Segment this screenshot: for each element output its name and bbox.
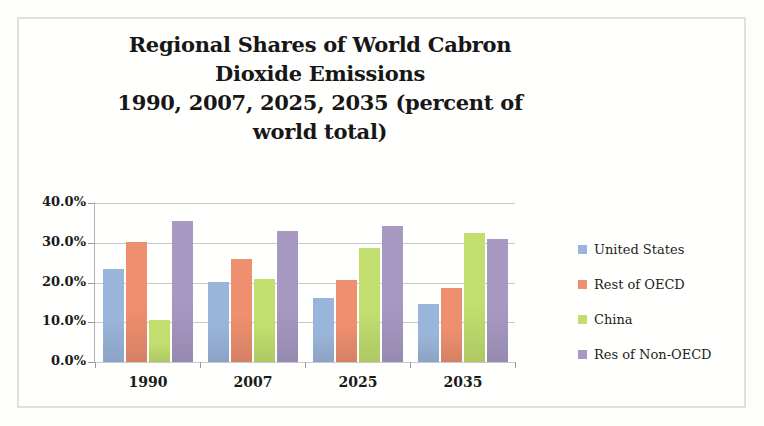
- legend-item: Res of Non-OECD: [578, 337, 748, 372]
- x-axis-tick-label: 2035: [411, 374, 516, 390]
- legend-item: United States: [578, 232, 748, 267]
- legend-item-label: China: [594, 312, 633, 327]
- y-axis-tick-label: 30.0%: [16, 234, 86, 249]
- legend-swatch-icon: [578, 280, 587, 289]
- x-axis-tick-label: 2007: [201, 374, 306, 390]
- y-axis-tick-label: 40.0%: [16, 194, 86, 209]
- bar: [231, 259, 252, 362]
- y-axis-labels: 0.0%10.0%20.0%30.0%40.0%: [14, 0, 86, 426]
- bar: [441, 288, 462, 362]
- legend-item-label: Res of Non-OECD: [594, 347, 712, 362]
- bar: [418, 304, 439, 362]
- bar: [382, 226, 403, 362]
- legend-item: China: [578, 302, 748, 337]
- bar: [487, 239, 508, 362]
- chart-screenshot: Regional Shares of World Cabron Dioxide …: [0, 0, 764, 426]
- plot-area: [95, 203, 515, 362]
- chart-title: Regional Shares of World Cabron Dioxide …: [60, 30, 580, 146]
- bar: [359, 248, 380, 362]
- bar: [313, 298, 334, 362]
- bar: [208, 282, 229, 362]
- gridline: [95, 243, 515, 244]
- chart-title-line-3: 1990, 2007, 2025, 2035 (percent of: [60, 88, 580, 117]
- bar: [277, 231, 298, 362]
- y-axis-tick-label: 10.0%: [16, 313, 86, 328]
- legend-swatch-icon: [578, 245, 587, 254]
- legend-swatch-icon: [578, 315, 587, 324]
- bar: [464, 233, 485, 362]
- legend-item: Rest of OECD: [578, 267, 748, 302]
- legend-item-label: Rest of OECD: [594, 277, 685, 292]
- bar: [126, 242, 147, 362]
- bar: [254, 279, 275, 362]
- y-axis-tick-label: 0.0%: [16, 353, 86, 368]
- y-axis-tick-label: 20.0%: [16, 274, 86, 289]
- bar: [172, 221, 193, 362]
- x-axis-tick: [95, 362, 96, 368]
- bar: [103, 269, 124, 362]
- gridline: [95, 283, 515, 284]
- x-axis-tick-label: 2025: [306, 374, 411, 390]
- x-axis-tick: [515, 362, 516, 368]
- x-axis-tick: [410, 362, 411, 368]
- x-axis-tick: [200, 362, 201, 368]
- chart-title-line-1: Regional Shares of World Cabron: [60, 30, 580, 59]
- chart-legend: United StatesRest of OECDChinaRes of Non…: [578, 232, 748, 372]
- x-axis-tick: [305, 362, 306, 368]
- legend-item-label: United States: [594, 242, 684, 257]
- legend-swatch-icon: [578, 350, 587, 359]
- gridline: [95, 203, 515, 204]
- bar: [336, 280, 357, 362]
- bar: [149, 320, 170, 362]
- chart-title-line-4: world total): [60, 117, 580, 146]
- chart-title-line-2: Dioxide Emissions: [60, 59, 580, 88]
- x-axis-tick-label: 1990: [96, 374, 201, 390]
